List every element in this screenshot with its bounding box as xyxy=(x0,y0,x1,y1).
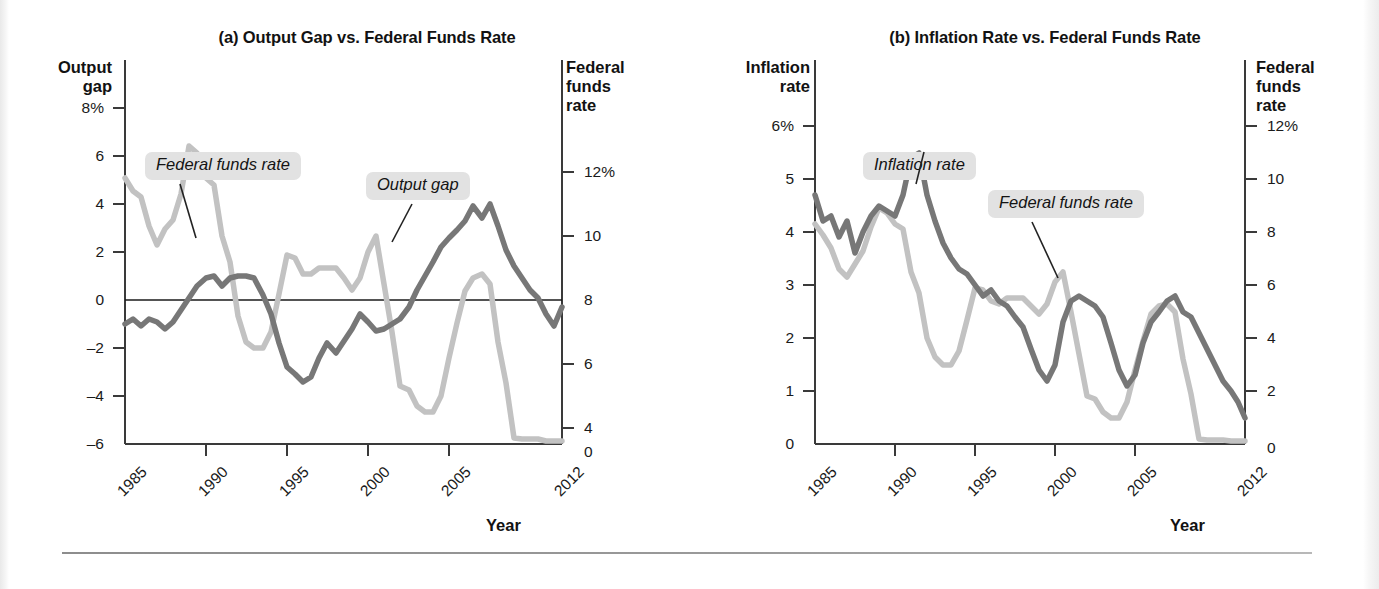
panel-b-x-tick-3: 2000 xyxy=(1026,463,1081,518)
panel-a-x-tick-4: 2005 xyxy=(420,463,475,518)
figure-two-panel-monetary-policy: (a) Output Gap vs. Federal Funds Rate Ou… xyxy=(0,0,1379,589)
panel-a-right-tick-2: 8 xyxy=(584,291,644,309)
panel-b-left-tick-1: 5 xyxy=(742,170,794,188)
panel-b-x-tick-0: 1985 xyxy=(786,463,841,518)
panel-b-right-tick-1: 10 xyxy=(1267,170,1327,188)
panel-b-right-tick-3: 6 xyxy=(1267,276,1327,294)
panel-b-right-tick-6: 0 xyxy=(1267,439,1327,457)
panel-a-left-ticks xyxy=(113,108,125,396)
panel-a-x-tick-0: 1985 xyxy=(96,463,151,518)
panel-a-x-ticks xyxy=(206,444,449,456)
panel-a-left-tick-5: –2 xyxy=(52,339,104,357)
panel-b-right-tick-5: 2 xyxy=(1267,382,1327,400)
panel-b-left-tick-0: 6% xyxy=(742,117,794,135)
panel-a-right-tick-0: 12% xyxy=(584,163,644,181)
panel-b-callout-inflation-rate: Inflation rate xyxy=(863,152,976,180)
panel-b: (b) Inflation Rate vs. Federal Funds Rat… xyxy=(690,0,1379,589)
panel-a-right-tick-6: 0 xyxy=(584,443,644,461)
panel-b-series-federal-funds-rate xyxy=(815,208,1245,441)
panel-b-x-axis-title: Year xyxy=(1170,516,1205,535)
panel-b-right-tick-0: 12% xyxy=(1267,117,1327,135)
panel-a: (a) Output Gap vs. Federal Funds Rate Ou… xyxy=(0,0,690,589)
panel-a-callout-federal-funds-rate: Federal funds rate xyxy=(145,152,301,180)
panel-a-left-tick-3: 2 xyxy=(52,243,104,261)
panel-a-left-tick-7: –6 xyxy=(52,435,104,453)
panel-b-x-tick-2: 1995 xyxy=(946,463,1001,518)
panel-b-left-tick-4: 2 xyxy=(742,329,794,347)
panel-b-left-tick-3: 3 xyxy=(742,276,794,294)
panel-a-left-tick-4: 0 xyxy=(52,291,104,309)
panel-a-right-ticks xyxy=(562,172,574,428)
panel-b-left-tick-6: 0 xyxy=(742,435,794,453)
panel-b-callout-federal-funds-rate: Federal funds rate xyxy=(988,190,1144,218)
panel-a-left-tick-6: –4 xyxy=(52,387,104,405)
panel-a-x-tick-2: 1995 xyxy=(258,463,313,518)
panel-a-series-output-gap xyxy=(125,204,562,382)
panel-b-x-ticks xyxy=(895,444,1135,456)
panel-a-x-tick-5: 2012 xyxy=(533,463,588,518)
panel-a-right-tick-4: 4 xyxy=(584,419,644,437)
panel-b-x-tick-4: 2005 xyxy=(1106,463,1161,518)
panel-b-left-ticks xyxy=(803,126,815,391)
panel-a-x-tick-1: 1990 xyxy=(177,463,232,518)
panel-b-left-tick-5: 1 xyxy=(742,382,794,400)
panel-b-right-ticks xyxy=(1245,126,1257,391)
panel-a-callout-output-gap: Output gap xyxy=(366,172,470,200)
panel-b-x-tick-1: 1990 xyxy=(866,463,921,518)
panel-a-left-tick-2: 4 xyxy=(52,195,104,213)
panel-b-x-tick-5: 2012 xyxy=(1216,463,1271,518)
panel-a-left-tick-1: 6 xyxy=(52,147,104,165)
panel-a-x-tick-3: 2000 xyxy=(339,463,394,518)
panel-a-left-tick-0: 8% xyxy=(52,99,104,117)
panel-b-left-tick-2: 4 xyxy=(742,223,794,241)
panel-b-right-tick-2: 8 xyxy=(1267,223,1327,241)
panel-a-x-axis-title: Year xyxy=(486,516,521,535)
panel-a-right-tick-3: 6 xyxy=(584,355,644,373)
panel-a-right-tick-1: 10 xyxy=(584,227,644,245)
figure-bottom-rule xyxy=(62,552,1312,554)
panel-b-right-tick-4: 4 xyxy=(1267,329,1327,347)
